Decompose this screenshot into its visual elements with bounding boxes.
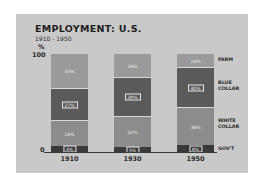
legend-label: COLLAR bbox=[218, 86, 239, 92]
segment-label: 24% bbox=[125, 63, 139, 68]
y-axis-unit: % bbox=[38, 43, 45, 51]
segment-govt: 8% bbox=[177, 145, 214, 152]
segment-farm: 33% bbox=[51, 54, 88, 88]
segment-label: 8% bbox=[189, 145, 202, 152]
bar-1930: 24% 39% 32% 5% bbox=[114, 54, 151, 152]
legend-govt: GOV'T bbox=[218, 146, 234, 152]
x-label-1910: 1910 bbox=[51, 155, 88, 163]
chart-subtitle: 1910 - 1950 bbox=[35, 35, 72, 42]
segment-blue-collar: 27% bbox=[51, 89, 88, 120]
segment-white-collar: 32% bbox=[114, 117, 151, 147]
bar-1950: 14% 40% 38% 8% bbox=[177, 54, 214, 152]
segment-blue-collar: 40% bbox=[177, 68, 214, 107]
segment-label: 38% bbox=[188, 124, 202, 129]
segment-farm: 24% bbox=[114, 54, 151, 77]
segment-label: 40% bbox=[187, 84, 203, 91]
legend-white-collar: WHITECOLLAR bbox=[218, 118, 239, 130]
segment-label: 27% bbox=[61, 101, 77, 108]
chart-title: EMPLOYMENT: U.S. bbox=[35, 23, 142, 34]
legend-blue-collar: BLUECOLLAR bbox=[218, 80, 239, 92]
segment-farm: 14% bbox=[177, 54, 214, 67]
segment-label: 39% bbox=[124, 94, 140, 101]
x-axis-baseline bbox=[44, 152, 217, 153]
segment-white-collar: 38% bbox=[177, 108, 214, 145]
segment-blue-collar: 39% bbox=[114, 78, 151, 116]
bar-1910: 33% 27% 24% 4% bbox=[51, 54, 88, 152]
legend-farm: FARM bbox=[218, 57, 233, 63]
x-label-1950: 1950 bbox=[177, 155, 214, 163]
segment-label: 33% bbox=[62, 69, 76, 74]
legend-label: FARM bbox=[218, 57, 233, 62]
x-label-1930: 1930 bbox=[114, 155, 151, 163]
segment-label: 32% bbox=[125, 130, 139, 135]
segment-label: 14% bbox=[188, 58, 202, 63]
y-tick-100: 100 bbox=[32, 51, 46, 59]
legend-label: GOV'T bbox=[218, 146, 234, 151]
legend-label: COLLAR bbox=[218, 124, 239, 130]
segment-white-collar: 24% bbox=[51, 121, 88, 146]
segment-label: 24% bbox=[62, 131, 76, 136]
